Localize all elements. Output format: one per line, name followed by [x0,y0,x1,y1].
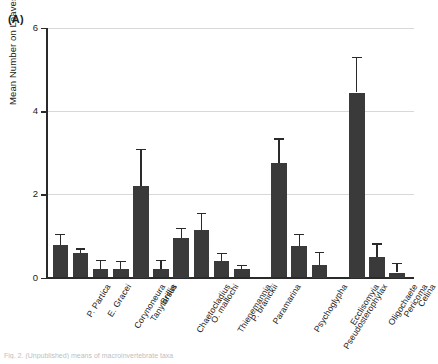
bar [93,269,109,277]
error-bar-cap [116,261,126,262]
y-tick-label-4: 4 [20,105,38,116]
error-bar-cap [372,243,382,244]
y-axis-title: Mean Number on Leaves [7,0,18,105]
bar [312,265,328,278]
error-bar-stem [356,57,357,92]
error-bar-cap [76,248,86,249]
error-bar-cap [176,228,186,229]
error-bar-stem [140,149,141,186]
bar [389,273,405,278]
error-bar-cap [237,265,247,266]
bar [369,257,385,278]
bar [133,186,149,278]
y-tick-label-0: 0 [20,272,38,283]
bar [173,238,189,278]
error-bar-cap [315,252,325,253]
bar [113,269,129,277]
error-bar-cap [96,260,106,261]
bar [214,261,230,278]
bar [349,93,365,278]
figure-caption: Fig. 2. (Unpublished) means of macroinve… [4,352,424,359]
bar [153,269,169,277]
bar [291,246,307,277]
error-bar-cap [294,234,304,235]
bar [234,269,250,277]
error-bar-cap [55,234,65,235]
error-bar-cap [274,138,284,139]
error-bar-cap [136,149,146,150]
error-bar-stem [60,234,61,245]
y-tick-label-2: 2 [20,188,38,199]
gridline-6 [46,28,414,29]
y-axis-line [46,28,48,278]
error-bar-stem [376,243,377,256]
error-bar-stem [278,138,279,163]
y-tick-label-6: 6 [20,22,38,33]
error-bar-cap [352,57,362,58]
bar [53,245,69,277]
bar [271,163,287,277]
error-bar-stem [201,213,202,230]
error-bar-stem [299,234,300,247]
error-bar-cap [197,213,207,214]
error-bar-stem [319,252,320,265]
x-tick-label: Psychoglypha [312,282,349,334]
error-bar-cap [156,260,166,261]
error-bar-stem [396,263,397,273]
error-bar-cap [217,253,227,254]
bar [73,253,89,277]
error-bar-cap [392,263,402,264]
error-bar-stem [181,228,182,238]
bar [194,230,210,278]
